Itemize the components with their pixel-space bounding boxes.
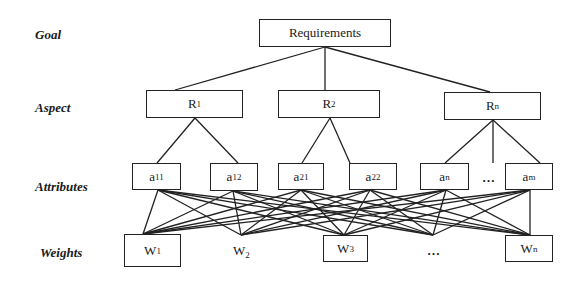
- weight-ellipsis: …: [427, 243, 440, 259]
- weight-node-w3: W3: [323, 235, 368, 262]
- weight-node-wn: Wn: [505, 235, 553, 262]
- attribute-ellipsis: …: [482, 170, 495, 186]
- level-label-attributes: Attributes: [35, 179, 88, 195]
- level-label-aspect: Aspect: [35, 100, 70, 116]
- aspect-node-r1: R1: [146, 90, 243, 118]
- attribute-node-a12: a12: [210, 163, 258, 191]
- level-label-weights: Weights: [40, 245, 82, 261]
- attribute-node-a11: a11: [132, 163, 181, 190]
- weight-node-w1: W1: [124, 234, 181, 267]
- goal-node-requirements: Requirements: [259, 19, 391, 47]
- attribute-node-a22: a22: [349, 163, 397, 190]
- weight-node-w2: W2: [233, 243, 250, 260]
- aspect-node-rn: Rn: [444, 92, 541, 120]
- level-label-goal: Goal: [35, 27, 61, 43]
- attribute-node-am: am: [505, 163, 553, 190]
- aspect-node-r2: R2: [278, 90, 380, 118]
- attribute-node-an: an: [420, 163, 469, 190]
- goal-label: Requirements: [289, 25, 361, 41]
- attribute-node-a21: a21: [278, 163, 324, 190]
